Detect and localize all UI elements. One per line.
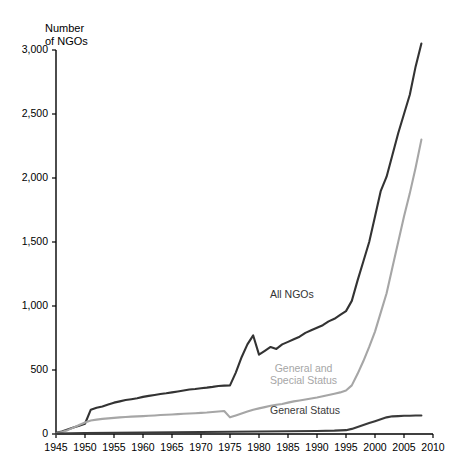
series-line-0 — [56, 44, 421, 433]
series-label-1: General and Special Status — [270, 362, 337, 386]
y-tick-label: 2,500 — [0, 107, 48, 119]
y-tick-label: 3,000 — [0, 43, 48, 55]
plot-area — [0, 0, 460, 467]
series-line-1 — [56, 140, 421, 434]
series-label-2: General Status — [270, 404, 340, 416]
x-tick-label: 2010 — [413, 441, 453, 453]
y-tick-label: 500 — [0, 363, 48, 375]
ngo-growth-chart: Number of NGOs 05001,0001,5002,0002,5003… — [0, 0, 460, 467]
y-tick-label: 1,000 — [0, 299, 48, 311]
y-tick-label: 2,000 — [0, 171, 48, 183]
y-tick-label: 1,500 — [0, 235, 48, 247]
series-label-0: All NGOs — [270, 288, 314, 300]
y-tick-label: 0 — [0, 427, 48, 439]
